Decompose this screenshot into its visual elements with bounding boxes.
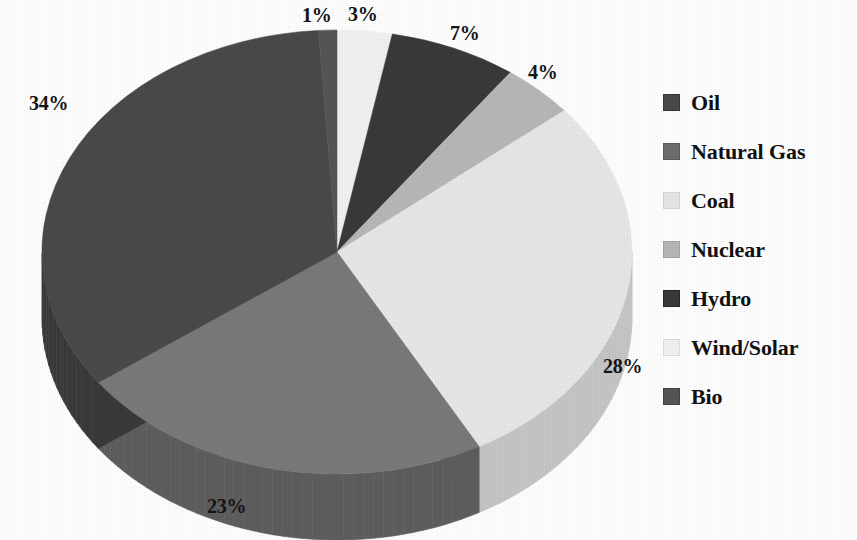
slice-label-bio: 1% (302, 4, 332, 27)
pie-slice-side (253, 465, 263, 533)
pie-slice-side (313, 473, 323, 540)
pie-slice-side (544, 405, 551, 476)
pie-slice-side (558, 393, 565, 465)
pie-slice-side (155, 426, 163, 497)
legend-swatch-icon (663, 192, 680, 209)
legend-item-hydro[interactable]: Hydro (660, 274, 857, 323)
pie-slice-side (479, 443, 488, 513)
pie-slice-side (363, 472, 373, 539)
pie-slice-side (374, 471, 384, 538)
legend-swatch-icon (663, 143, 680, 160)
pie-chart-plot: 1% 3% 7% 4% 34% 28% 23% (0, 0, 660, 540)
legend-item-coal[interactable]: Coal (660, 176, 857, 225)
legend-item-label: Natural Gas (691, 139, 805, 165)
legend-item-label: Coal (691, 188, 735, 214)
legend-item-label: Hydro (691, 286, 751, 312)
pie-slice-side (77, 357, 82, 430)
pie-slice-side (488, 439, 497, 509)
legend-swatch-icon (663, 94, 680, 111)
pie-slice-side (583, 368, 589, 440)
pie-slice-side (263, 467, 273, 535)
pie-slice-side (68, 343, 72, 416)
pie-slice-side (303, 473, 313, 540)
pie-slice-side (293, 472, 303, 539)
slice-label-nuclear: 4% (528, 61, 558, 84)
legend-item-label: Wind/Solar (691, 335, 798, 361)
pie-slice-side (171, 435, 180, 505)
pie-slice-side (197, 447, 206, 517)
pie-slice-side (497, 435, 506, 505)
pie-slice-side (394, 468, 404, 536)
pie-slice-side (54, 314, 57, 387)
legend-item-label: Nuclear (691, 237, 765, 263)
slice-label-hydro: 7% (450, 22, 480, 45)
pie-slice-side (82, 363, 87, 436)
legend-item-label: Oil (691, 90, 720, 116)
legend-item-nuclear[interactable]: Nuclear (660, 225, 857, 274)
slice-label-coal: 28% (603, 355, 642, 378)
pie-slice-side (343, 474, 353, 540)
pie-slice-side (513, 425, 521, 496)
slice-label-wind-solar: 3% (348, 3, 378, 26)
pie-slice-side (413, 464, 423, 532)
pie-slice-side (384, 470, 394, 537)
legend-swatch-icon (663, 388, 680, 405)
pie-slice-side (577, 375, 583, 447)
pie-slice-side (353, 473, 363, 540)
pie-slice-side (188, 444, 197, 514)
pie-slice-side (72, 350, 77, 423)
pie-slice-side (57, 322, 60, 395)
pie-slice-side (51, 307, 54, 380)
slice-label-natural-gas: 23% (207, 495, 246, 518)
pie-slice-side (49, 299, 51, 373)
pie-slice-side (423, 462, 433, 530)
pie-slice-side (273, 469, 283, 537)
pie-chart-svg (0, 0, 660, 540)
pie-slice-side (163, 431, 171, 501)
pie-slice-side (521, 420, 529, 491)
pie-slice-side (93, 376, 99, 448)
pie-slice-side (551, 399, 558, 471)
slice-label-oil: 34% (29, 92, 68, 115)
pie-slice-side (64, 336, 68, 409)
pie-slice-side (433, 459, 443, 528)
legend-item-natural-gas[interactable]: Natural Gas (660, 127, 857, 176)
chart-legend: OilNatural GasCoalNuclearHydroWind/Solar… (660, 78, 857, 418)
pie-slice-side (147, 422, 155, 493)
pie-top-faces (42, 30, 632, 474)
pie-slice-side (283, 470, 293, 537)
legend-swatch-icon (663, 290, 680, 307)
legend-item-label: Bio (691, 384, 723, 410)
pie-slice-side (505, 430, 513, 501)
pie-slice-side (588, 362, 593, 435)
legend-swatch-icon (663, 241, 680, 258)
legend-item-wind-solar[interactable]: Wind/Solar (660, 323, 857, 372)
pie-slice-side (529, 415, 537, 486)
legend-item-bio[interactable]: Bio (660, 372, 857, 421)
legend-swatch-icon (663, 339, 680, 356)
pie-slice-side (323, 474, 333, 540)
pie-slice-side (139, 417, 147, 488)
pie-slice-side (571, 381, 577, 453)
pie-slice-side (60, 329, 64, 402)
pie-slice-side (565, 387, 571, 459)
pie-chart-figure: 1% 3% 7% 4% 34% 28% 23% OilNatural GasCo… (0, 0, 857, 540)
pie-slice-side (87, 370, 93, 442)
pie-slice-side (537, 410, 544, 481)
pie-slice-side (333, 474, 343, 540)
legend-item-oil[interactable]: Oil (660, 78, 857, 127)
pie-slice-side (404, 466, 414, 534)
pie-slice-side (594, 355, 599, 428)
pie-slice-side (179, 440, 188, 510)
